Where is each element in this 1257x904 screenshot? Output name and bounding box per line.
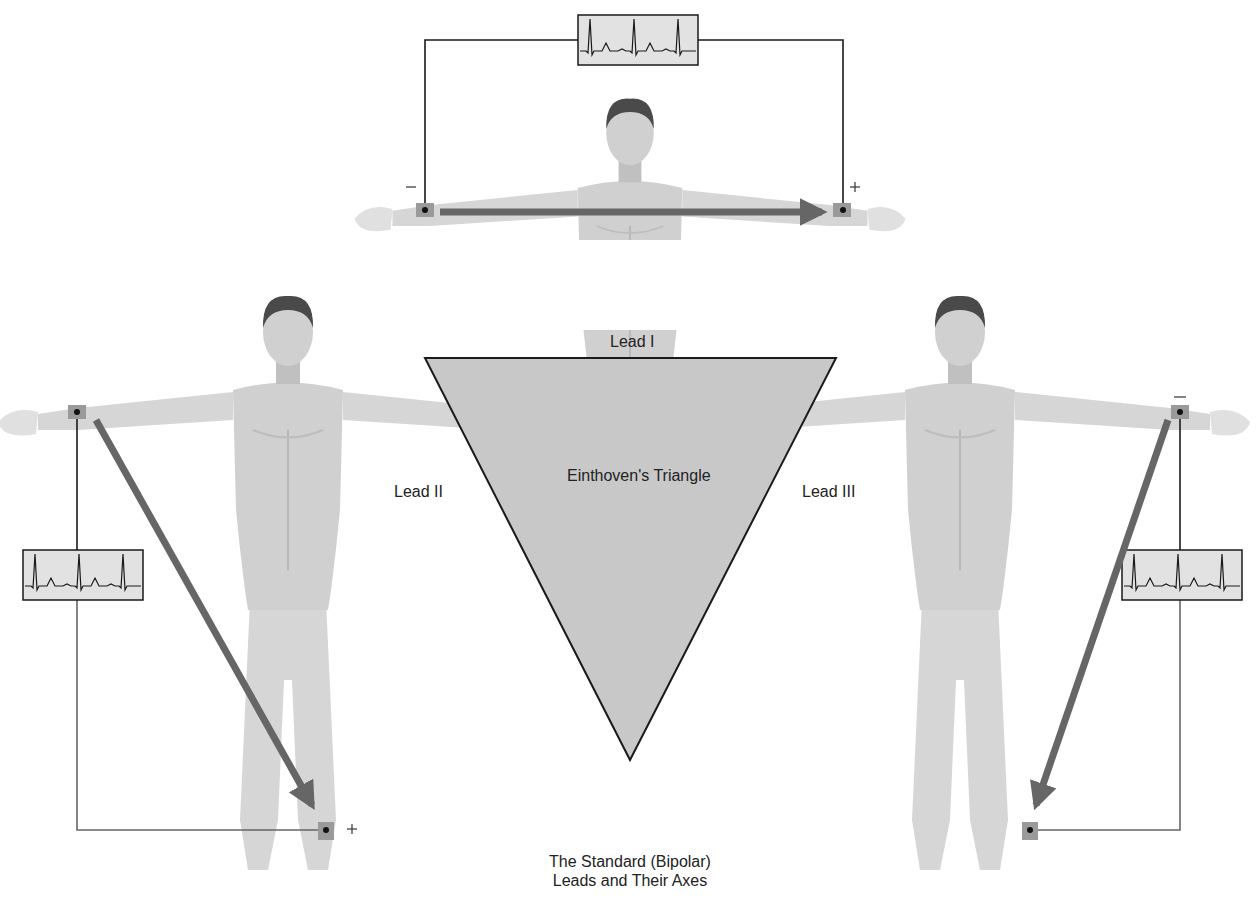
triangle-title: Einthoven's Triangle (567, 467, 711, 485)
caption-line-2: Leads and Their Axes (500, 871, 760, 890)
lead-3-label: Lead III (802, 483, 855, 501)
lead-2-label: Lead II (394, 483, 443, 501)
figure-caption: The Standard (Bipolar) Leads and Their A… (500, 852, 760, 890)
einthoven-diagram (0, 0, 1257, 904)
lead-3-wiring (1022, 405, 1242, 840)
caption-line-1: The Standard (Bipolar) (500, 852, 760, 871)
einthoven-triangle (425, 358, 836, 760)
lead-1-label: Lead I (610, 333, 654, 351)
